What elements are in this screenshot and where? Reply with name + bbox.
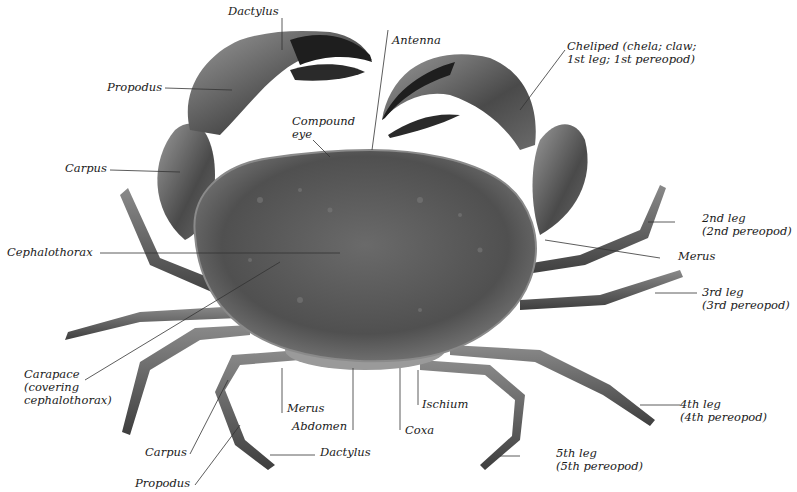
label-coxa: Coxa — [405, 424, 434, 437]
label-carpus-leg: Carpus — [145, 446, 187, 459]
label-cheliped: Cheliped (chela; claw; 1st leg; 1st pere… — [567, 40, 696, 66]
carapace-shape — [194, 150, 535, 361]
label-carapace-line3: cephalothorax) — [24, 394, 112, 407]
label-cephalothorax: Cephalothorax — [7, 246, 93, 259]
label-compound-eye: Compound eye — [292, 115, 355, 141]
label-leg5: 5th leg (5th pereopod) — [556, 447, 643, 473]
label-leg3: 3rd leg (3rd pereopod) — [702, 286, 790, 312]
label-leg3-line2: (3rd pereopod) — [702, 299, 790, 312]
label-dactylus-claw: Dactylus — [228, 5, 279, 18]
label-carpus-claw: Carpus — [65, 162, 107, 175]
label-propodus-leg: Propodus — [135, 477, 190, 490]
label-dactylus-leg: Dactylus — [320, 446, 371, 459]
label-merus-leg: Merus — [287, 402, 324, 415]
label-leg5-line2: (5th pereopod) — [556, 460, 643, 473]
label-ischium: Ischium — [422, 398, 468, 411]
label-leg4: 4th leg (4th pereopod) — [680, 398, 767, 424]
label-leg2: 2nd leg (2nd pereopod) — [702, 212, 792, 238]
label-compound-eye-line2: eye — [292, 128, 355, 141]
label-merus-right: Merus — [678, 250, 715, 263]
label-antenna: Antenna — [392, 34, 441, 47]
label-carapace: Carapace (covering cephalothorax) — [24, 368, 112, 407]
label-cheliped-line2: 1st leg; 1st pereopod) — [567, 53, 696, 66]
label-leg4-line2: (4th pereopod) — [680, 411, 767, 424]
crab-anatomy-diagram: Dactylus Antenna Propodus Cheliped (chel… — [0, 0, 797, 492]
label-leg2-line2: (2nd pereopod) — [702, 225, 792, 238]
label-abdomen: Abdomen — [292, 420, 347, 433]
label-propodus-claw: Propodus — [107, 81, 162, 94]
crab-illustration — [0, 0, 797, 492]
